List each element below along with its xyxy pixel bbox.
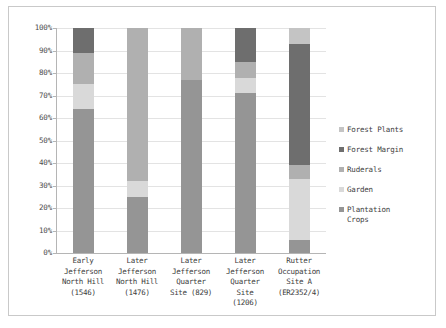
bar-segment[interactable] xyxy=(235,93,256,253)
x-axis-category-line: Later xyxy=(215,256,275,267)
x-axis-category-line: (ER2352/4) xyxy=(269,288,329,299)
legend-item[interactable]: Forest Plants xyxy=(339,125,439,135)
bar-group xyxy=(73,28,94,253)
bar-group xyxy=(235,28,256,253)
legend-label: Plantation Crops xyxy=(347,205,390,224)
bar-segment[interactable] xyxy=(73,109,94,253)
x-axis-category-line: Rutter xyxy=(269,256,329,267)
y-axis-tick xyxy=(53,73,56,74)
x-axis-category-line: North Hill xyxy=(107,277,167,288)
legend-swatch-icon xyxy=(339,207,344,212)
bar-segment[interactable] xyxy=(289,165,310,179)
y-axis-tick xyxy=(53,51,56,52)
bar-group xyxy=(127,28,148,253)
chart-legend: Forest PlantsForest MarginRuderalsGarden… xyxy=(339,125,439,235)
x-axis-category-line: Site (829) xyxy=(161,288,221,299)
x-axis-category-line: Quarter xyxy=(215,277,275,288)
legend-label: Forest Plants xyxy=(347,125,403,135)
x-axis-category-line: Site xyxy=(215,288,275,299)
stacked-bar[interactable] xyxy=(181,28,202,253)
stacked-bar[interactable] xyxy=(289,28,310,253)
y-axis-tick xyxy=(53,163,56,164)
y-axis-tick xyxy=(53,253,56,254)
bar-segment[interactable] xyxy=(235,62,256,78)
legend-item[interactable]: Ruderals xyxy=(339,165,439,175)
plot-inner xyxy=(56,28,326,253)
legend-label: Garden xyxy=(347,185,373,195)
x-axis-category-line: Jefferson xyxy=(107,267,167,278)
legend-swatch-icon xyxy=(339,187,344,192)
bar-segment[interactable] xyxy=(235,78,256,94)
y-axis-tick-label: 50% xyxy=(18,137,52,145)
bar-segment[interactable] xyxy=(73,28,94,53)
stacked-bar[interactable] xyxy=(127,28,148,253)
x-axis-category-line: Occupation xyxy=(269,267,329,278)
bar-segment[interactable] xyxy=(289,44,310,166)
y-axis-tick-label: 40% xyxy=(18,159,52,167)
legend-swatch-icon xyxy=(339,147,344,152)
x-axis-category-line: (1546) xyxy=(53,288,113,299)
plot-area xyxy=(56,22,326,253)
y-axis-tick xyxy=(53,96,56,97)
y-axis-label-group: 0%10%20%30%40%50%60%70%80%90%100% xyxy=(14,22,52,253)
x-axis-category-line: Jefferson xyxy=(53,267,113,278)
y-axis-line xyxy=(56,28,57,253)
legend-item[interactable]: Forest Margin xyxy=(339,145,439,155)
x-axis-category-line: Later xyxy=(107,256,167,267)
chart-frame: 0%10%20%30%40%50%60%70%80%90%100% EarlyJ… xyxy=(8,6,436,316)
y-axis-tick-label: 70% xyxy=(18,92,52,100)
bar-segment[interactable] xyxy=(181,28,202,80)
x-axis-category-line: North Hill xyxy=(53,277,113,288)
legend-item[interactable]: Garden xyxy=(339,185,439,195)
bar-segment[interactable] xyxy=(289,28,310,44)
bar-segment[interactable] xyxy=(289,179,310,240)
x-axis-category-label: EarlyJeffersonNorth Hill(1546) xyxy=(53,256,113,298)
x-axis-category-label: RutterOccupationSite A(ER2352/4) xyxy=(269,256,329,298)
y-axis-tick-label: 80% xyxy=(18,69,52,77)
y-axis-tick-label: 100% xyxy=(18,24,52,32)
x-axis-category-line: Early xyxy=(53,256,113,267)
y-axis-tick-label: 20% xyxy=(18,204,52,212)
stacked-bar[interactable] xyxy=(73,28,94,253)
y-axis-tick xyxy=(53,186,56,187)
bar-segment[interactable] xyxy=(73,84,94,109)
bar-segment[interactable] xyxy=(289,240,310,254)
x-axis-label-group: EarlyJeffersonNorth Hill(1546)LaterJeffe… xyxy=(56,256,328,314)
x-axis-line xyxy=(56,253,326,254)
y-axis-tick xyxy=(53,118,56,119)
bar-group xyxy=(181,28,202,253)
y-axis-tick-label: 60% xyxy=(18,114,52,122)
x-axis-category-line: Later xyxy=(161,256,221,267)
x-axis-category-line: Site A xyxy=(269,277,329,288)
y-axis-tick xyxy=(53,141,56,142)
y-axis-tick-label: 30% xyxy=(18,182,52,190)
legend-label: Ruderals xyxy=(347,165,382,175)
bar-segment[interactable] xyxy=(127,197,148,253)
stacked-bar[interactable] xyxy=(235,28,256,253)
y-axis-tick-label: 0% xyxy=(18,249,52,257)
y-axis-tick xyxy=(53,208,56,209)
x-axis-category-label: LaterJeffersonQuarterSite(1206) xyxy=(215,256,275,309)
legend-label: Forest Margin xyxy=(347,145,403,155)
bar-segment[interactable] xyxy=(235,28,256,62)
bar-segment[interactable] xyxy=(127,181,148,197)
y-axis-tick-label: 90% xyxy=(18,47,52,55)
y-axis-tick xyxy=(53,28,56,29)
legend-swatch-icon xyxy=(339,127,344,132)
bar-group xyxy=(289,28,310,253)
legend-swatch-icon xyxy=(339,167,344,172)
x-axis-category-line: (1206) xyxy=(215,298,275,309)
x-axis-category-line: Jefferson xyxy=(215,267,275,278)
bar-segment[interactable] xyxy=(127,28,148,181)
bar-segment[interactable] xyxy=(181,80,202,253)
x-axis-category-line: (1476) xyxy=(107,288,167,299)
x-axis-category-label: LaterJeffersonNorth Hill(1476) xyxy=(107,256,167,298)
bar-segment[interactable] xyxy=(73,53,94,85)
x-axis-category-label: LaterJeffersonQuarterSite (829) xyxy=(161,256,221,298)
x-axis-category-line: Quarter xyxy=(161,277,221,288)
legend-item[interactable]: Plantation Crops xyxy=(339,205,439,224)
y-axis-tick xyxy=(53,231,56,232)
x-axis-category-line: Jefferson xyxy=(161,267,221,278)
y-axis-tick-label: 10% xyxy=(18,227,52,235)
